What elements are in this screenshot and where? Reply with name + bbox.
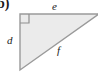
- triangle-figure: b) e d f: [0, 0, 98, 78]
- side-label-top: e: [52, 1, 57, 12]
- right-triangle-shape: [20, 14, 98, 70]
- triangle-svg: [0, 0, 98, 78]
- side-label-hypotenuse: f: [57, 45, 60, 56]
- part-label: b): [0, 0, 9, 11]
- side-label-left: d: [7, 35, 13, 46]
